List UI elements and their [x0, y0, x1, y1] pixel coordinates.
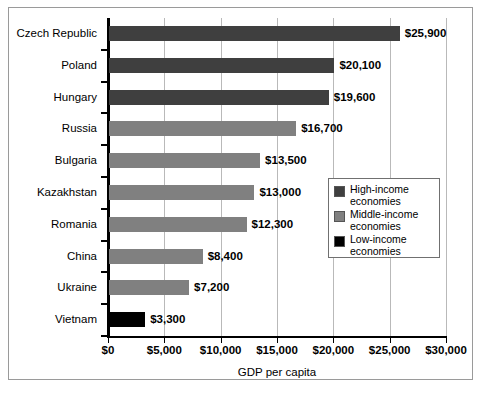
category-label-russia: Russia — [0, 120, 103, 136]
bar-poland[interactable] — [108, 58, 334, 73]
bar-china[interactable] — [108, 249, 203, 264]
y-tick — [101, 335, 108, 337]
bar-value-label: $7,200 — [194, 279, 229, 295]
gdp-per-capita-bar-chart: $25,900$20,100$19,600$16,700$13,500$13,0… — [0, 0, 483, 395]
x-tick-label: $0 — [102, 344, 115, 356]
legend: High-income economiesMiddle-income econo… — [328, 178, 440, 258]
x-tick-label: $30,000 — [425, 344, 467, 356]
x-tick-label: $15,000 — [256, 344, 298, 356]
category-label-czech-republic: Czech Republic — [0, 25, 103, 41]
bar-row: $19,600 — [108, 82, 446, 114]
x-tick — [390, 338, 391, 343]
bar-row: $13,500 — [108, 145, 446, 177]
x-tick-label: $20,000 — [313, 344, 355, 356]
bar-value-label: $13,500 — [265, 152, 307, 168]
bar-vietnam[interactable] — [108, 312, 145, 327]
x-tick — [164, 338, 165, 343]
bar-bulgaria[interactable] — [108, 153, 260, 168]
bar-row: $20,100 — [108, 50, 446, 82]
y-tick — [101, 303, 108, 305]
y-tick — [101, 240, 108, 242]
legend-label: High-income economies — [350, 184, 409, 207]
bar-value-label: $16,700 — [301, 120, 343, 136]
bar-row: $7,200 — [108, 272, 446, 304]
legend-item-low[interactable]: Low-income economies — [334, 234, 435, 257]
y-tick — [101, 208, 108, 210]
legend-label: Middle-income economies — [350, 209, 418, 232]
category-label-poland: Poland — [0, 57, 103, 73]
x-tick — [333, 338, 334, 343]
bar-row: $3,300 — [108, 304, 446, 336]
y-tick — [101, 49, 108, 51]
bar-value-label: $8,400 — [208, 248, 243, 264]
gridline-30000 — [446, 18, 447, 336]
x-tick — [108, 338, 109, 343]
y-tick — [101, 81, 108, 83]
legend-swatch-high-icon — [334, 186, 345, 197]
bar-value-label: $25,900 — [405, 25, 447, 41]
legend-item-middle[interactable]: Middle-income economies — [334, 209, 435, 232]
category-label-china: China — [0, 248, 103, 264]
category-label-ukraine: Ukraine — [0, 279, 103, 295]
plot-area: $25,900$20,100$19,600$16,700$13,500$13,0… — [108, 18, 446, 336]
legend-label: Low-income economies — [350, 234, 407, 257]
bar-value-label: $12,300 — [252, 216, 294, 232]
x-tick — [446, 338, 447, 343]
y-tick — [101, 176, 108, 178]
category-labels: Czech RepublicPolandHungaryRussiaBulgari… — [0, 18, 103, 336]
x-tick — [277, 338, 278, 343]
x-axis-title: GDP per capita — [108, 366, 446, 378]
bar-value-label: $20,100 — [339, 57, 381, 73]
bar-value-label: $3,300 — [150, 311, 185, 327]
category-label-kazakhstan: Kazakhstan — [0, 184, 103, 200]
bar-kazakhstan[interactable] — [108, 185, 254, 200]
bar-hungary[interactable] — [108, 90, 329, 105]
bar-row: $16,700 — [108, 113, 446, 145]
bar-russia[interactable] — [108, 121, 296, 136]
y-tick — [101, 271, 108, 273]
bar-value-label: $13,000 — [259, 184, 301, 200]
bar-czech-republic[interactable] — [108, 26, 400, 41]
x-tick — [221, 338, 222, 343]
bar-romania[interactable] — [108, 217, 247, 232]
y-tick — [101, 112, 108, 114]
category-label-bulgaria: Bulgaria — [0, 152, 103, 168]
x-tick-label: $5,000 — [147, 344, 182, 356]
y-tick — [101, 144, 108, 146]
bar-ukraine[interactable] — [108, 280, 189, 295]
category-label-vietnam: Vietnam — [0, 311, 103, 327]
legend-swatch-middle-icon — [334, 211, 345, 222]
category-label-hungary: Hungary — [0, 89, 103, 105]
x-tick-label: $10,000 — [200, 344, 242, 356]
bar-value-label: $19,600 — [334, 89, 376, 105]
legend-item-high[interactable]: High-income economies — [334, 184, 435, 207]
legend-swatch-low-icon — [334, 236, 345, 247]
x-tick-label: $25,000 — [369, 344, 411, 356]
category-label-romania: Romania — [0, 216, 103, 232]
bar-row: $25,900 — [108, 18, 446, 50]
